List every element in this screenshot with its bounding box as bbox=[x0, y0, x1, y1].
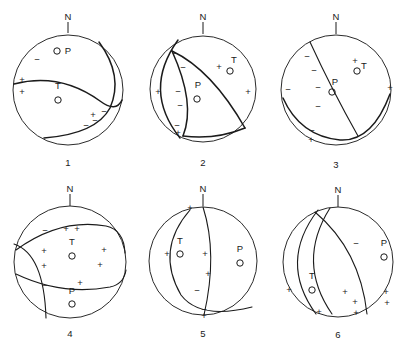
panel-6-polarity-mark: + bbox=[316, 306, 322, 317]
panel-6-rim bbox=[283, 207, 393, 317]
panel-6-group: N T P − + + + + + + + 6 bbox=[283, 184, 393, 340]
panel-6-nodal-plane-a2 bbox=[313, 208, 332, 314]
stereonet-figure: N P T − + + + − − − 1 N T P bbox=[0, 0, 408, 350]
panel-6-polarity-mark: + bbox=[353, 307, 359, 318]
panel-6-nodal-plane-a bbox=[297, 210, 318, 314]
panel-6-north-label: N bbox=[335, 184, 342, 195]
panel-6-polarity-mark: + bbox=[342, 286, 348, 297]
panel-6-p-dot bbox=[381, 254, 387, 260]
panel-6-p-label: P bbox=[381, 237, 387, 248]
panel-6-polarity-mark: + bbox=[352, 296, 358, 307]
panel-6-polarity-mark: + bbox=[383, 286, 389, 297]
panel-6: N T P − + + + + + + + 6 bbox=[0, 0, 408, 350]
panel-6-polarity-mark: + bbox=[286, 284, 292, 295]
panel-6-polarity-mark: + bbox=[384, 297, 390, 308]
panel-6-t-dot bbox=[309, 287, 315, 293]
panel-6-t-label: T bbox=[309, 270, 315, 281]
panel-6-number: 6 bbox=[335, 329, 340, 340]
panel-6-polarity-mark: − bbox=[353, 238, 359, 249]
